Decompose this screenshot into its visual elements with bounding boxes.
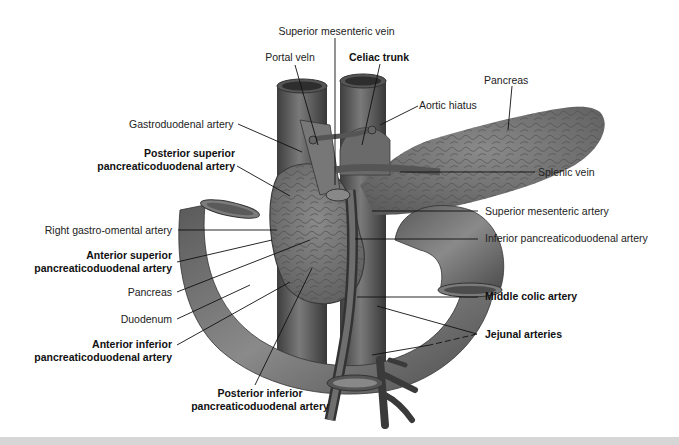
bottom-border <box>0 437 679 445</box>
label-superior-mesenteric-vein: Superior mesenteric vein <box>274 25 399 38</box>
label-anterior-superior-pd-artery-line2: pancreaticoduodenal artery <box>20 262 172 275</box>
label-superior-mesenteric-artery: Superior mesenteric artery <box>485 205 609 218</box>
anatomy-illustration <box>0 0 679 445</box>
label-right-gastro-omental-artery: Right gastro-omental artery <box>20 224 172 237</box>
label-middle-colic-artery: Middle colic artery <box>485 290 577 303</box>
label-celiac-trunk: Celiac trunk <box>349 51 409 64</box>
label-posterior-superior-pd-artery-line2: pancreaticoduodenal artery <box>80 160 235 173</box>
label-inferior-pd-artery: Inferior pancreaticoduodenal artery <box>485 232 648 245</box>
label-posterior-inferior-pd-artery-line2: pancreaticoduodenal artery <box>160 400 360 413</box>
label-pancreas-tail: Pancreas <box>484 74 528 87</box>
label-posterior-inferior-pd-artery-line1: Posterior inferior <box>180 387 340 400</box>
label-aortic-hiatus: Aortic hiatus <box>419 99 477 112</box>
label-anterior-inferior-pd-artery-line2: pancreaticoduodenal artery <box>20 351 172 364</box>
label-jejunal-arteries: Jejunal arteries <box>485 328 562 341</box>
label-gastroduodenal-artery: Gastroduodenal artery <box>129 118 233 131</box>
jejunum <box>395 205 504 297</box>
splenic-vein <box>335 167 440 172</box>
label-anterior-superior-pd-artery-line1: Anterior superior <box>20 249 172 262</box>
label-anterior-inferior-pd-artery-line1: Anterior inferior <box>20 338 172 351</box>
label-duodenum: Duodenum <box>20 313 172 326</box>
label-posterior-superior-pd-artery-line1: Posterior superior <box>80 147 235 160</box>
pancreas-body-tail <box>360 107 605 215</box>
label-splenic-vein: Splenic vein <box>538 166 595 179</box>
label-pancreas-head: Pancreas <box>20 286 172 299</box>
label-portal-vein: Portal veln <box>260 51 320 64</box>
